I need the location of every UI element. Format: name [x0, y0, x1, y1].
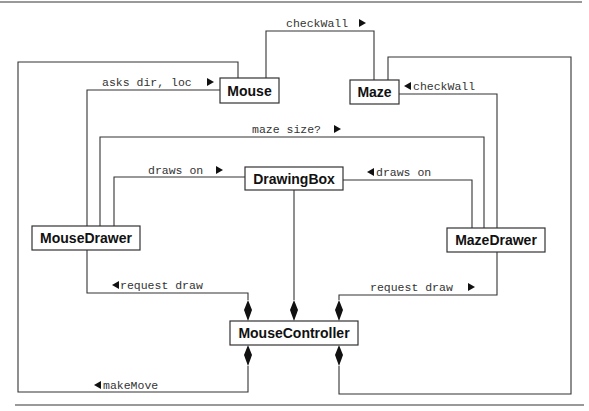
label-checkwall-right: checkWall — [413, 80, 475, 93]
connector-controller-maze — [339, 57, 571, 394]
composition-diamond-icon — [335, 345, 343, 366]
label-checkwall-top: checkWall — [286, 17, 348, 30]
arrow-left-icon — [367, 168, 374, 176]
arrow-right-icon — [334, 125, 341, 133]
class-mazedrawer-label: MazeDrawer — [455, 232, 537, 248]
class-mouse: Mouse — [220, 78, 279, 103]
composition-diamond-icon — [335, 300, 343, 321]
class-mousecontroller-label: MouseController — [238, 325, 350, 341]
label-draws-on-right: draws on — [376, 166, 431, 179]
arrow-right-icon — [216, 166, 223, 174]
connector-mazedrawer-maze-checkwall — [399, 94, 497, 228]
connector-mouse-maze-checkwall — [266, 31, 374, 80]
arrow-left-icon — [94, 381, 101, 389]
arrow-left-icon — [404, 82, 411, 90]
arrow-right-icon — [207, 78, 214, 86]
connector-mousedrawer-mouse-asks — [87, 90, 220, 226]
composition-diamond-icon — [290, 300, 298, 321]
uml-class-diagram: checkWall makeMove asks dir, loc checkWa… — [0, 0, 589, 411]
connector-mazedrawer-drawingbox — [343, 180, 472, 228]
arrow-left-icon — [112, 281, 119, 289]
label-request-draw-right: request draw — [370, 281, 453, 294]
arrow-right-icon — [359, 19, 366, 27]
composition-diamond-icon — [244, 300, 252, 321]
label-draws-on-left: draws on — [148, 164, 203, 177]
label-maze-size: maze size? — [252, 123, 321, 136]
class-drawingbox: DrawingBox — [245, 167, 343, 190]
connector-mousedrawer-drawingbox — [114, 177, 245, 226]
class-mousecontroller: MouseController — [230, 321, 358, 345]
class-mousedrawer-label: MouseDrawer — [40, 230, 132, 246]
connector-controller-mousedrawer — [87, 250, 248, 300]
class-mousedrawer: MouseDrawer — [32, 226, 140, 250]
label-makemove: makeMove — [103, 379, 158, 392]
label-request-draw-left: request draw — [120, 279, 203, 292]
label-asks-dir-loc: asks dir, loc — [102, 76, 192, 89]
class-maze: Maze — [350, 80, 399, 104]
composition-diamond-icon — [244, 345, 252, 366]
arrow-right-icon — [468, 283, 475, 291]
class-drawingbox-label: DrawingBox — [253, 171, 335, 187]
class-mazedrawer: MazeDrawer — [447, 228, 545, 252]
class-maze-label: Maze — [357, 84, 391, 100]
class-mouse-label: Mouse — [227, 83, 272, 99]
